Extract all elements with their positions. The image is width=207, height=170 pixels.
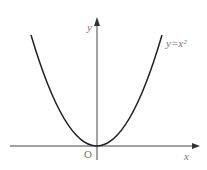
curve-label: y=x²	[166, 38, 187, 49]
x-axis-label: x	[184, 151, 189, 162]
y-axis-label: y	[87, 22, 92, 33]
y-axis-arrow-icon	[94, 17, 100, 26]
origin-label: O	[84, 149, 92, 160]
x-axis-arrow-icon	[192, 143, 200, 149]
parabola-diagram	[0, 0, 207, 170]
